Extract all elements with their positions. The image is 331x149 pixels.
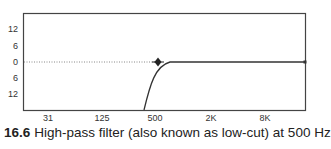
y-tick-label: 6 [13,73,18,83]
figure-caption-text: High-pass filter (also known as low-cut)… [34,125,330,140]
y-tick-label: 0 [13,57,18,67]
x-tick-label: 31 [43,113,53,122]
y-tick-label: 12 [8,89,18,99]
figure-number: 16.6 [4,125,30,140]
x-tick-label: 125 [94,113,109,122]
x-tick-label: 2K [205,113,216,122]
endpoint-marker[interactable] [304,61,307,64]
y-tick-label: 6 [13,41,18,51]
x-tick-label: 500 [147,113,162,122]
y-tick-label: 12 [8,24,18,34]
eq-chart: 12 6 0 6 12 31 125 500 2K 8K [0,0,320,122]
x-tick-label: 8K [259,113,270,122]
figure-caption: 16.6High-pass filter (also known as low-… [4,125,331,140]
